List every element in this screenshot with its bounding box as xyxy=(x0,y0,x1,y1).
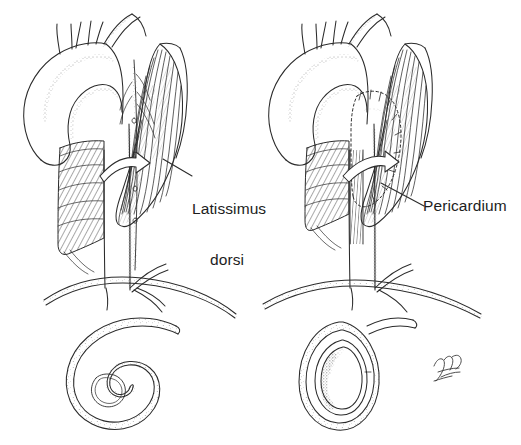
latissimus-dorsi-muscle-left xyxy=(116,43,187,226)
latissimus-dorsi-muscle-right xyxy=(361,43,432,226)
label-latissimus-line1: Latissimus xyxy=(192,200,266,217)
aortic-graft-bed-right xyxy=(305,141,349,250)
leader-line-latissimus xyxy=(163,159,192,176)
anatomical-illustration-figure: Latissimus dorsi Pericardium xyxy=(0,0,521,445)
label-latissimus-line2: dorsi xyxy=(192,251,266,268)
aortic-graft-bed-left xyxy=(58,141,104,274)
leader-line-pericardium xyxy=(381,183,424,206)
label-latissimus-dorsi: Latissimus dorsi xyxy=(192,166,266,302)
diaphragm-right xyxy=(263,280,481,318)
subdiaphragmatic-vessels-left xyxy=(106,264,168,312)
artist-signature xyxy=(434,355,461,381)
spiral-coil-cross-section-left xyxy=(66,318,179,429)
label-pericardium: Pericardium xyxy=(423,197,507,214)
right-panel-illustration xyxy=(263,14,481,430)
oval-ring-cross-section-right xyxy=(299,318,417,430)
transposition-arrow-left xyxy=(100,152,150,182)
